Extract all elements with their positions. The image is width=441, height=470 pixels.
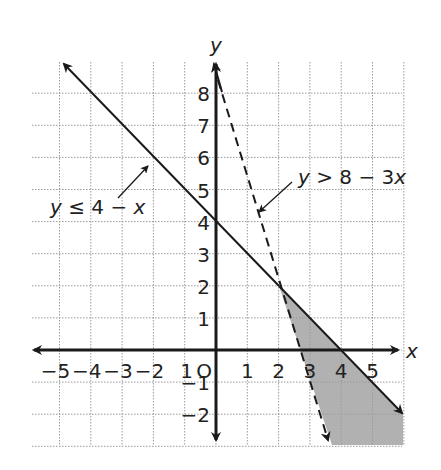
y-tick-label: 1	[197, 307, 210, 331]
x-tick-label: −2	[135, 359, 164, 383]
eq2-var-x: x	[393, 165, 406, 189]
x-tick-label: 1	[241, 359, 254, 383]
x-axis-label: x	[405, 339, 418, 363]
x-tick-label: 3	[304, 359, 317, 383]
y-tick-label: 5	[197, 179, 210, 203]
x-tick-label: −4	[72, 359, 101, 383]
x-tick-label: 2	[272, 359, 285, 383]
eq1-var-x: x	[133, 195, 146, 219]
inequality-graph: −5−4−3−21O12345 87654321−1−2 x y y ≤ 4 −…	[0, 0, 441, 470]
y-tick-label: −2	[181, 403, 210, 427]
y-tick-label: 7	[197, 114, 210, 138]
annotation-y-le-4-minus-x: y ≤ 4 − x	[49, 195, 146, 219]
x-tick-label: 4	[335, 359, 348, 383]
annotation-arrow-2	[259, 182, 292, 212]
y-tick-label: −1	[181, 371, 210, 395]
x-tick-label: −3	[103, 359, 132, 383]
y-tick-label: 6	[197, 146, 210, 170]
y-tick-label: 2	[197, 275, 210, 299]
eq2-rest: > 8 − 3	[310, 165, 394, 189]
annotation-y-gt-8-minus-3x: y > 8 − 3x	[297, 165, 406, 189]
eq1-rest: ≤ 4 −	[62, 195, 134, 219]
y-tick-label: 8	[197, 82, 210, 106]
line-y-le-4-minus-x	[64, 64, 279, 286]
y-tick-label: 3	[197, 243, 210, 267]
y-axis-label: y	[209, 33, 223, 57]
x-tick-label: −5	[41, 359, 70, 383]
x-tick-label: 5	[366, 359, 379, 383]
y-tick-label: 4	[197, 211, 210, 235]
line-y-gt-8-minus-3x	[218, 80, 328, 440]
